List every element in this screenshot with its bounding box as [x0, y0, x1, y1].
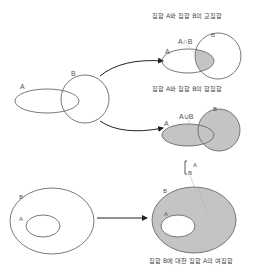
- set-a-ellipse: [161, 215, 195, 237]
- complement-bracket-icon: [185, 161, 187, 174]
- complement-title: 집합 B에 대한 집합 A의 여집합: [149, 257, 233, 265]
- set-a-label: A: [164, 120, 169, 127]
- set-a-label: A: [20, 83, 25, 90]
- arrow-to-union: [100, 121, 163, 131]
- set-a-label: A: [19, 216, 23, 222]
- set-a-label: A: [164, 211, 168, 217]
- set-operations-diagram: A B 집합 A와 집합 B의 교집합 A∩B A B 집합 A와 집합 B의 …: [0, 0, 256, 274]
- set-a-label: A: [165, 48, 170, 55]
- union-diagram: 집합 A와 집합 B의 합집합 A∪B A B: [152, 85, 240, 151]
- set-b-label: B: [213, 106, 217, 112]
- set-a-ellipse: [15, 89, 79, 113]
- union-notation: A∪B: [179, 113, 194, 120]
- set-b-label: B: [163, 188, 167, 194]
- complement-notation-bottom: B: [188, 170, 192, 176]
- set-b-label: B: [71, 70, 76, 77]
- subset-source-diagram: B A: [10, 188, 94, 254]
- set-b-circle: [61, 75, 109, 123]
- complement-notation-top: A: [193, 162, 197, 168]
- intersection-diagram: 집합 A와 집합 B의 교집합 A∩B A B: [152, 12, 241, 79]
- intersection-notation: A∩B: [178, 38, 193, 45]
- union-title: 집합 A와 집합 B의 합집합: [152, 85, 222, 93]
- set-b-label: B: [211, 32, 215, 38]
- set-b-label: B: [19, 194, 23, 200]
- intersection-title: 집합 A와 집합 B의 교집합: [152, 12, 222, 20]
- arrow-to-intersection: [100, 61, 163, 76]
- set-a-ellipse: [26, 215, 60, 237]
- source-venn: A B: [15, 70, 109, 123]
- complement-diagram: B A 집합 B에 대한 집합 A의 여집합: [149, 187, 236, 265]
